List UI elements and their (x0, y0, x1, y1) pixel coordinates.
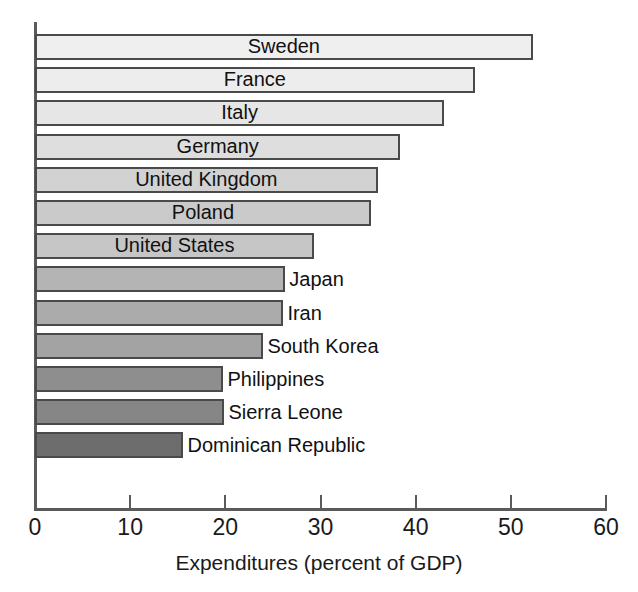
bar[interactable] (35, 432, 183, 458)
x-tick-label: 40 (386, 514, 446, 540)
bar[interactable] (35, 34, 533, 60)
x-tick-mark (320, 495, 322, 509)
bar[interactable] (35, 200, 371, 226)
x-tick-mark (605, 495, 607, 509)
bar[interactable] (35, 100, 444, 126)
x-tick-mark (224, 495, 226, 509)
bar[interactable] (35, 366, 223, 392)
bar-row[interactable]: United Kingdom (0, 165, 638, 198)
bar-row[interactable]: United States (0, 231, 638, 264)
bar[interactable] (35, 300, 283, 326)
bar-row[interactable]: Iran (0, 298, 638, 331)
x-tick-label: 20 (195, 514, 255, 540)
bar-label: Japan (289, 266, 344, 292)
x-tick-label: 60 (576, 514, 636, 540)
bar-row[interactable]: South Korea (0, 331, 638, 364)
bar[interactable] (35, 266, 285, 292)
x-tick-mark (129, 495, 131, 509)
x-tick-label: 10 (100, 514, 160, 540)
bar-label: Philippines (227, 366, 324, 392)
x-tick-label: 50 (481, 514, 541, 540)
bar[interactable] (35, 134, 400, 160)
bar-row[interactable]: Poland (0, 198, 638, 231)
bar-row[interactable]: Germany (0, 132, 638, 165)
bar-label: South Korea (267, 333, 378, 359)
bar-chart: SwedenFranceItalyGermanyUnited KingdomPo… (0, 0, 638, 592)
bar-row[interactable]: Sweden (0, 32, 638, 65)
bar-row[interactable]: Sierra Leone (0, 397, 638, 430)
bar[interactable] (35, 399, 224, 425)
bar-row[interactable]: Italy (0, 98, 638, 131)
bar[interactable] (35, 67, 475, 93)
x-tick-mark (34, 495, 36, 509)
plot-area: SwedenFranceItalyGermanyUnited KingdomPo… (0, 0, 638, 510)
bar[interactable] (35, 167, 378, 193)
bar-label: Dominican Republic (187, 432, 365, 458)
bar[interactable] (35, 233, 314, 259)
x-tick-mark (415, 495, 417, 509)
x-tick-label: 0 (5, 514, 65, 540)
bar-row[interactable]: Dominican Republic (0, 430, 638, 463)
x-axis-title: Expenditures (percent of GDP) (0, 551, 638, 575)
bar[interactable] (35, 333, 263, 359)
bar-row[interactable]: Japan (0, 264, 638, 297)
bar-row[interactable]: France (0, 65, 638, 98)
bar-label: Sierra Leone (228, 399, 343, 425)
bar-row[interactable]: Philippines (0, 364, 638, 397)
x-tick-label: 30 (291, 514, 351, 540)
x-tick-mark (510, 495, 512, 509)
bar-label: Iran (287, 300, 321, 326)
